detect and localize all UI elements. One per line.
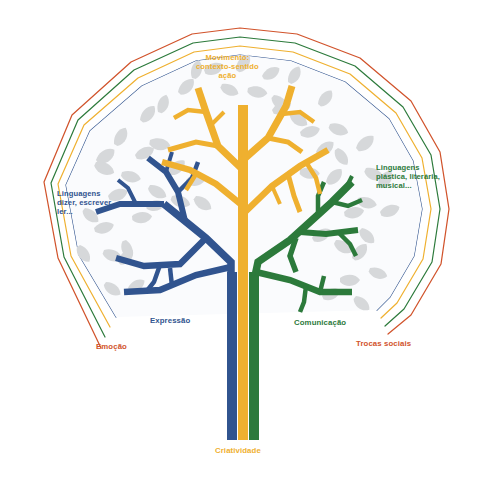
trunk-stripe-blue <box>227 272 237 440</box>
label-canopy-left: Linguagens dizer, escrever, ler... <box>57 190 113 217</box>
blue-bottom-tip <box>170 268 172 286</box>
label-trunk-base: Criatividade <box>215 446 261 455</box>
label-canopy-right: Linguagens plástica, literária, musical.… <box>376 164 440 191</box>
tree-diagram: Movimento: contexto-sentido ação Linguag… <box>0 0 496 477</box>
label-branch-left-inner: Expressão <box>150 316 190 325</box>
trunk-stripe-green <box>249 272 259 440</box>
label-contour-right-outer: Trocas sociais <box>356 339 411 348</box>
label-contour-left-outer: Emoção <box>96 342 127 351</box>
label-branch-right-inner: Comunicação <box>294 318 346 327</box>
label-canopy-top: Movimento: contexto-sentido ação <box>196 54 259 81</box>
